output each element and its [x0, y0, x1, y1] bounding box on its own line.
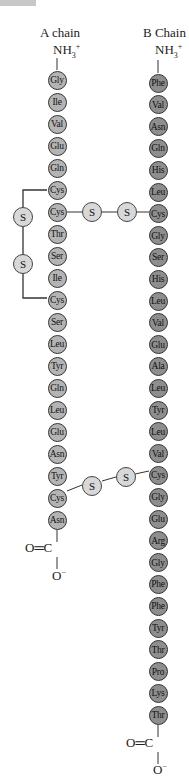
- sulfur-atom-b19: S: [116, 467, 136, 487]
- chain-a-carbonyl: O═C: [25, 540, 52, 556]
- chain-b-residue-17: Leu: [149, 422, 168, 441]
- chain-b-residue-16: Tyr: [149, 401, 168, 420]
- chain-b-residue-25: Phe: [149, 597, 168, 616]
- chain-b-carboxylate-oxygen: O−: [153, 762, 167, 778]
- chain-b-residue-6: Leu: [149, 183, 168, 202]
- chain-a-residue-7: Cys: [48, 203, 67, 222]
- chain-a-residue-2: Ile: [48, 93, 67, 112]
- chain-b-residue-9: Ser: [149, 248, 168, 267]
- chain-b-residue-8: Gly: [149, 226, 168, 245]
- chain-a-residue-10: Ile: [48, 269, 67, 288]
- chain-b-residue-20: Gly: [149, 488, 168, 507]
- chain-b-residue-11: Leu: [149, 292, 168, 311]
- sulfur-atom-a20: S: [82, 476, 102, 496]
- chain-a-residue-8: Thr: [48, 225, 67, 244]
- chain-b-residue-4: Gln: [149, 139, 168, 158]
- chain-a-carboxylate-oxygen: O−: [52, 568, 66, 584]
- chain-a-residue-17: Glu: [48, 423, 67, 442]
- chain-b-residue-26: Tyr: [149, 619, 168, 638]
- chain-b-residue-14: Ala: [149, 357, 168, 376]
- chain-b-residue-1: Phe: [149, 74, 168, 93]
- chain-b-residue-24: Phe: [149, 575, 168, 594]
- chain-a-residue-16: Leu: [48, 401, 67, 420]
- chain-b-label: B Chain: [143, 25, 186, 41]
- chain-b-residue-7: Cys: [149, 204, 168, 223]
- chain-b-carbonyl: O═C: [126, 735, 153, 751]
- chain-b-residue-27: Thr: [149, 640, 168, 659]
- sulfur-atom-a7: S: [82, 202, 102, 222]
- chain-a-residue-1: Gly: [48, 71, 67, 90]
- chain-a-label: A chain: [40, 25, 80, 41]
- insulin-diagram: A chain B Chain NH3+ NH3+ GlyIleValGluGl…: [0, 0, 189, 779]
- chain-b-residue-22: Arg: [149, 531, 168, 550]
- chain-a-residue-4: Glu: [48, 137, 67, 156]
- chain-a-residue-9: Ser: [48, 247, 67, 266]
- chain-b-residue-13: Glu: [149, 335, 168, 354]
- chain-a-residue-14: Tyr: [48, 357, 67, 376]
- chain-a-residue-19: Tyr: [48, 467, 67, 486]
- chain-b-residue-10: His: [149, 270, 168, 289]
- chain-a-residue-5: Gln: [48, 159, 67, 178]
- chain-a-residue-20: Cys: [48, 489, 67, 508]
- chain-b-residue-5: His: [149, 161, 168, 180]
- chain-b-residue-29: Lys: [149, 684, 168, 703]
- chain-b-residue-21: Glu: [149, 510, 168, 529]
- chain-a-residue-12: Ser: [48, 313, 67, 332]
- chain-a-residue-3: Val: [48, 115, 67, 134]
- chain-b-residue-30: Thr: [149, 706, 168, 725]
- chain-b-residue-18: Val: [149, 444, 168, 463]
- chain-b-residue-15: Leu: [149, 379, 168, 398]
- chain-b-residue-2: Val: [149, 95, 168, 114]
- chain-a-residue-21: Asn: [48, 511, 67, 530]
- chain-a-residue-13: Leu: [48, 335, 67, 354]
- chain-b-n-terminus: NH3+: [155, 42, 182, 60]
- chain-b-residue-23: Gly: [149, 553, 168, 572]
- chain-b-residue-3: Asn: [149, 117, 168, 136]
- chain-b-residue-19: Cys: [149, 466, 168, 485]
- sulfur-atom-b7: S: [117, 202, 137, 222]
- sulfur-atom-a11: S: [13, 254, 33, 274]
- chain-a-residue-6: Cys: [48, 181, 67, 200]
- chain-a-residue-15: Gln: [48, 379, 67, 398]
- chain-b-residue-28: Pro: [149, 662, 168, 681]
- chain-a-residue-18: Asn: [48, 445, 67, 464]
- chain-a-n-terminus: NH3+: [53, 42, 80, 60]
- chain-a-residue-11: Cys: [48, 291, 67, 310]
- chain-b-residue-12: Val: [149, 313, 168, 332]
- sulfur-atom-a6: S: [13, 207, 33, 227]
